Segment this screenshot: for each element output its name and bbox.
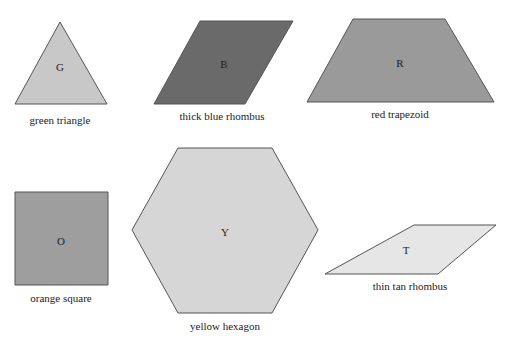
orange-square: O orange square: [15, 192, 108, 304]
orange-square-letter: O: [57, 235, 65, 247]
yellow-hexagon-caption: yellow hexagon: [190, 320, 260, 332]
red-trapezoid: R red trapezoid: [307, 19, 494, 120]
thick-blue-rhombus-letter: B: [220, 58, 227, 70]
red-trapezoid-caption: red trapezoid: [371, 108, 429, 120]
thin-tan-rhombus-caption: thin tan rhombus: [373, 280, 448, 292]
green-triangle-caption: green triangle: [30, 114, 91, 126]
red-trapezoid-letter: R: [396, 57, 404, 69]
thick-blue-rhombus: B thick blue rhombus: [154, 21, 293, 122]
thin-tan-rhombus: T thin tan rhombus: [325, 225, 496, 292]
thin-tan-rhombus-shape: [325, 225, 496, 274]
green-triangle: G green triangle: [15, 22, 107, 126]
shapes-canvas: G green triangle B thick blue rhombus R …: [0, 0, 515, 343]
thick-blue-rhombus-caption: thick blue rhombus: [180, 110, 265, 122]
green-triangle-letter: G: [56, 61, 64, 73]
yellow-hexagon-letter: Y: [221, 226, 229, 238]
yellow-hexagon: Y yellow hexagon: [132, 148, 318, 332]
thin-tan-rhombus-letter: T: [403, 244, 410, 256]
orange-square-caption: orange square: [30, 292, 92, 304]
